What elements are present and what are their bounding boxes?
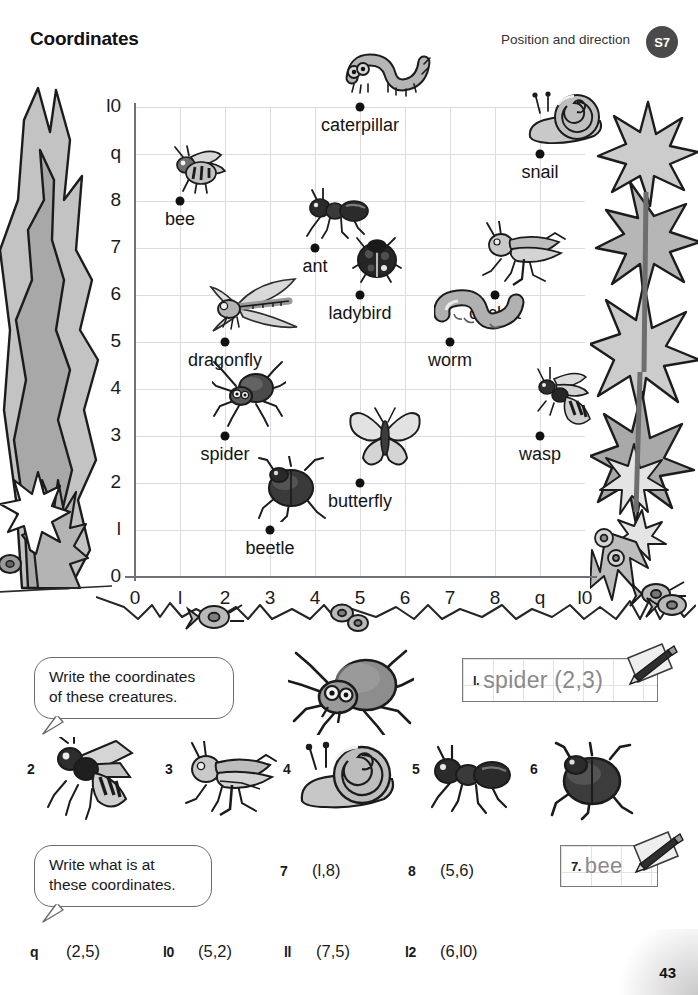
item-coord-8: (5,6) [440, 861, 474, 880]
ant-icon [428, 745, 514, 817]
plot-point-label: dragonfly [188, 350, 262, 371]
item-number-5: 5 [412, 761, 419, 777]
page-number: 43 [659, 964, 676, 981]
strand-label: Position and direction [501, 32, 630, 47]
instruction-line-2: of these creatures. [49, 687, 219, 707]
plot-point-label: worm [428, 350, 472, 371]
plot-point [266, 526, 275, 535]
corner-shading [620, 929, 698, 995]
plot-point [311, 244, 320, 253]
instruction-line-1: Write what is at [49, 855, 197, 875]
item-coord-12: (6,l0) [440, 942, 478, 961]
worksheet-page: Coordinates Position and direction S7 [0, 0, 698, 995]
grass-decoration [96, 591, 696, 633]
plot-point-label: ant [302, 256, 327, 277]
plot-point-label: cricket [469, 303, 521, 324]
y-axis-tick: l [93, 518, 121, 540]
item-coord-9: (2,5) [66, 942, 100, 961]
item-number-4: 4 [283, 761, 290, 777]
bubble-tail-icon [41, 903, 67, 923]
creature-thumbnail-row: 2 3 [0, 735, 698, 835]
coordinate-plot: 0l2345678ql00l2345678ql0 beecaterpillars… [135, 107, 585, 577]
y-axis-tick: 2 [93, 471, 121, 493]
instruction-line-2: these coordinates. [49, 875, 197, 895]
cricket-icon [180, 741, 280, 819]
y-axis-tick: q [93, 142, 121, 164]
bubble-tail-icon [41, 715, 67, 735]
y-axis-tick: 8 [93, 189, 121, 211]
item-number-2: 2 [27, 761, 34, 777]
spider-illustration [288, 645, 414, 735]
plot-point [356, 291, 365, 300]
item-number-8: 8 [408, 863, 415, 879]
y-axis-tick: 4 [93, 377, 121, 399]
item-coord-11: (7,5) [316, 942, 350, 961]
plot-point [356, 479, 365, 488]
item-number-11: ll [284, 944, 291, 960]
answer-text: spider (2,3) [483, 667, 603, 694]
plot-point [221, 338, 230, 347]
instruction-bubble-one: Write the coordinates of these creatures… [34, 657, 234, 719]
item-number-7: 7 [280, 863, 287, 879]
coordinate-grid-panel: 0l2345678ql00l2345678ql0 beecaterpillars… [0, 62, 698, 627]
plot-point-label: butterfly [328, 491, 392, 512]
pencil-icon [622, 638, 678, 688]
pencil-icon [628, 826, 684, 876]
y-axis-tick: l0 [93, 95, 121, 117]
plot-point-label: wasp [519, 444, 561, 465]
wasp-icon [44, 737, 138, 821]
item-coord-7: (l,8) [312, 861, 340, 880]
y-axis-tick: 3 [93, 424, 121, 446]
y-axis-tick: 6 [93, 283, 121, 305]
x-axis-line [125, 576, 597, 578]
page-title: Coordinates [30, 28, 139, 50]
plot-point-label: snail [521, 162, 558, 183]
y-axis-tick: 5 [93, 330, 121, 352]
plot-point [176, 197, 185, 206]
answer-number: 7. [561, 859, 585, 874]
item-number-12: l2 [405, 944, 416, 960]
instruction-bubble-two: Write what is at these coordinates. [34, 845, 212, 907]
y-axis-line [134, 103, 136, 581]
plot-point [536, 150, 545, 159]
item-number-9: q [30, 944, 38, 960]
item-number-10: l0 [163, 944, 174, 960]
plot-point [356, 103, 365, 112]
item-coord-10: (5,2) [198, 942, 232, 961]
plot-point [221, 432, 230, 441]
y-axis-tick: 7 [93, 236, 121, 258]
snail-icon [296, 739, 400, 821]
plot-point-label: bee [165, 209, 195, 230]
plot-point-label: ladybird [328, 303, 391, 324]
beetle-icon [546, 741, 640, 821]
plot-point-label: beetle [245, 538, 294, 559]
plot-point-label: spider [200, 444, 249, 465]
plot-point [536, 432, 545, 441]
plot-point [446, 338, 455, 347]
answer-text: bee [585, 853, 623, 879]
status-badge: S7 [646, 26, 678, 58]
plot-point [491, 291, 500, 300]
item-number-6: 6 [530, 761, 537, 777]
item-number-3: 3 [165, 761, 172, 777]
page-header: Coordinates Position and direction S7 [0, 28, 698, 66]
instruction-line-1: Write the coordinates [49, 667, 219, 687]
plant-right-decoration [590, 72, 698, 607]
y-axis-tick: 0 [93, 565, 121, 587]
answer-number: l. [463, 673, 483, 688]
plot-point-label: caterpillar [321, 115, 399, 136]
